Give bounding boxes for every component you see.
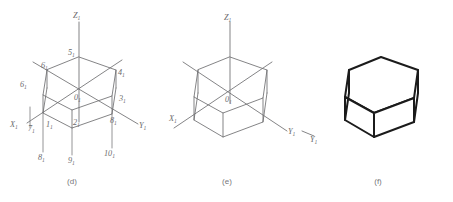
vertex-label-7-d: 71 (28, 124, 35, 134)
z-axis-label-e: Z1 (224, 13, 232, 23)
y-axis-label-e: Y1 (288, 127, 296, 137)
vertex-label-origin-e: 01 (225, 95, 232, 105)
figure-root: Z1 X1 Y1 01 11 21 31 41 51 61 61 71 81 8… (0, 0, 453, 202)
vertex-label-origin-d: 01 (74, 93, 81, 103)
y-axis-label-d: Y1 (139, 121, 147, 131)
vertex-label-6-d: 61 (41, 61, 48, 71)
vertex-label-10-d: 101 (104, 149, 115, 159)
vertex-label-4-d: 41 (118, 68, 125, 78)
y-axis-label-f: Y1 (310, 135, 318, 145)
vertex-label-6b-d: 61 (20, 80, 27, 90)
diagram-panel-f: Y1 (f) (300, 0, 453, 202)
caption-e: (e) (222, 177, 232, 186)
z-axis-label-d: Z1 (73, 11, 81, 21)
y-axis-line-e (183, 62, 287, 131)
x-axis-label-e: X1 (168, 114, 177, 124)
vertex-label-3-d: 31 (118, 94, 126, 104)
diagram-panel-e: Z1 X1 Y1 01 (e) (150, 0, 310, 202)
vertex-label-8-d: 81 (38, 153, 45, 163)
vertex-label-9-d: 91 (68, 156, 75, 166)
x-axis-label-d: X1 (9, 120, 18, 130)
vertex-label-8b-d: 81 (110, 116, 117, 126)
caption-f: (f) (374, 177, 382, 186)
caption-d: (d) (67, 177, 77, 186)
vertex-label-1-d: 11 (46, 120, 53, 130)
vertex-label-5-d: 51 (68, 48, 75, 58)
diagram-panel-d: Z1 X1 Y1 01 11 21 31 41 51 61 61 71 81 8… (0, 0, 160, 202)
